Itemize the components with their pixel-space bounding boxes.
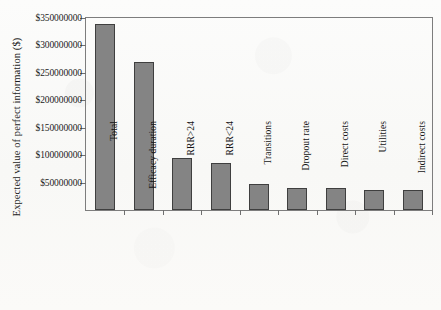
x-axis-tick-mark bbox=[317, 210, 318, 215]
x-axis-tick-label: Utilities bbox=[378, 121, 388, 217]
y-axis-tick-label: $350000000 bbox=[35, 13, 82, 23]
x-axis-tick-label: Indirect costs bbox=[417, 121, 427, 217]
x-axis-tick-mark bbox=[201, 210, 202, 215]
x-axis-tick-mark bbox=[278, 210, 279, 215]
x-axis-tick-mark bbox=[124, 210, 125, 215]
x-axis-tick-mark bbox=[163, 210, 164, 215]
x-axis-tick-mark bbox=[394, 210, 395, 215]
y-axis-tick-label: $300000000 bbox=[35, 40, 82, 50]
y-axis-tick-label: $250000000 bbox=[35, 68, 82, 78]
x-axis-tick-label: Direct costs bbox=[340, 121, 350, 217]
x-axis-tick-mark bbox=[432, 210, 433, 215]
y-axis-title: Expected value of perfect information ($… bbox=[6, 16, 28, 238]
y-axis-tick-label: $200000000 bbox=[35, 95, 82, 105]
x-axis-tick-label: Total bbox=[109, 121, 119, 217]
y-axis-tick-label: $100000000 bbox=[35, 150, 82, 160]
x-axis-tick-mark bbox=[355, 210, 356, 215]
x-axis-tick-label: Transitions bbox=[263, 121, 273, 217]
x-axis-tick-mark bbox=[240, 210, 241, 215]
x-axis-tick-label: Dropout rate bbox=[301, 121, 311, 217]
y-axis-tick-label: $150000000 bbox=[35, 123, 82, 133]
chart-figure: Expected value of perfect information ($… bbox=[0, 0, 441, 310]
x-axis-tick-label: RRR>24 bbox=[186, 121, 196, 217]
y-axis-tick-label: $50000000 bbox=[40, 178, 82, 188]
x-axis-tick-label: RRR<24 bbox=[225, 121, 235, 217]
plot-area: $50000000$100000000$150000000$200000000$… bbox=[85, 17, 433, 211]
plot-inner: $50000000$100000000$150000000$200000000$… bbox=[86, 18, 432, 210]
x-axis-tick-label: Efficacy duration bbox=[148, 121, 158, 217]
